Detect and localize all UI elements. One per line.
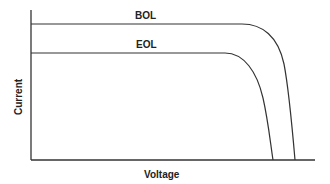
eol-label: EOL [136,39,157,50]
bol-curve [31,24,295,160]
bol-label: BOL [135,10,156,21]
y-axis-label: Current [13,78,24,115]
x-axis-label: Voltage [144,169,180,180]
iv-curve-chart: BOL EOL Voltage Current [0,0,330,184]
eol-curve [31,53,273,160]
